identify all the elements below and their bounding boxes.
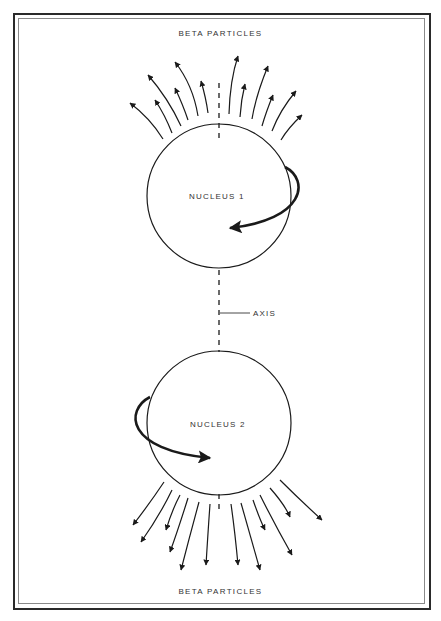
beta-particle-arrow-icon <box>280 480 322 520</box>
beta-particle-arrow-icon <box>281 115 302 140</box>
beta-particle-arrow-icon <box>270 488 290 517</box>
beta-particle-arrow-icon <box>166 495 180 530</box>
beta-particle-arrow-icon <box>252 66 268 119</box>
beta-particle-arrow-icon <box>240 84 245 117</box>
beta-particle-arrow-icon <box>229 56 238 114</box>
beta-particle-arrows-top <box>130 56 302 140</box>
beta-particle-arrow-icon <box>201 81 208 113</box>
beta-particle-arrow-icon <box>231 504 238 565</box>
beta-particle-arrow-icon <box>262 95 273 126</box>
beta-particle-arrow-icon <box>133 482 164 525</box>
nuclei-diagram <box>0 0 441 621</box>
beta-particle-arrow-icon <box>130 103 163 139</box>
beta-particle-arrow-icon <box>253 500 265 530</box>
beta-particles-label-top: BETA PARTICLES <box>0 29 441 38</box>
beta-particle-arrows-bottom <box>133 480 322 570</box>
beta-particle-arrow-icon <box>175 62 198 116</box>
beta-particle-arrow-icon <box>148 75 181 126</box>
nucleus-1-label: NUCLEUS 1 <box>189 192 245 201</box>
axis-label: AXIS <box>253 309 276 318</box>
beta-particle-arrow-icon <box>170 498 188 552</box>
beta-particle-arrow-icon <box>260 495 292 555</box>
beta-particle-arrow-icon <box>175 88 188 120</box>
beta-particles-label-bottom: BETA PARTICLES <box>0 587 441 596</box>
beta-particle-arrow-icon <box>141 490 172 542</box>
nucleus-2-label: NUCLEUS 2 <box>190 420 246 429</box>
beta-particle-arrow-icon <box>206 504 210 565</box>
